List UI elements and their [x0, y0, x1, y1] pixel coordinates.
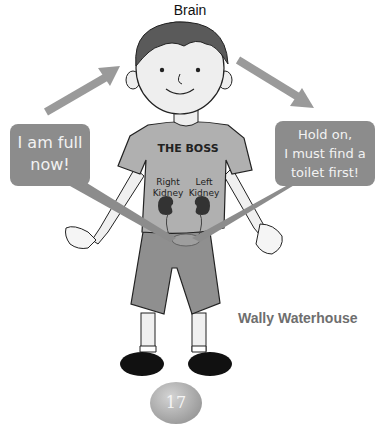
legs: [140, 313, 206, 352]
bubble-right-line-2: I must find a: [275, 144, 375, 163]
right-kidney: [158, 196, 173, 215]
speech-bubble-bladder: I am full now!: [10, 124, 90, 186]
arrow-from-brain: [238, 60, 314, 108]
head: [126, 22, 232, 114]
left-kidney: [195, 196, 210, 215]
illustration: THE BOSS Right Kidney Left Kidney: [0, 0, 382, 429]
bubble-right-line-3: toilet first!: [275, 163, 375, 182]
shirt-text: THE BOSS: [157, 142, 218, 155]
page-number-badge: 17: [150, 382, 202, 424]
brain-label: Brain: [150, 2, 230, 18]
left-kidney-label-1: Left: [196, 177, 213, 187]
character-name: Wally Waterhouse: [238, 310, 358, 326]
arrow-to-brain: [46, 66, 120, 112]
bubble-left-line-2: now!: [10, 154, 90, 176]
bladder: [172, 234, 200, 246]
bubble-left-line-1: I am full: [10, 132, 90, 154]
speech-bubble-brain: Hold on, I must find a toilet first!: [275, 121, 375, 186]
bubble-right-line-1: Hold on,: [275, 125, 375, 144]
shoes: [120, 352, 232, 376]
right-kidney-label-1: Right: [156, 177, 180, 187]
